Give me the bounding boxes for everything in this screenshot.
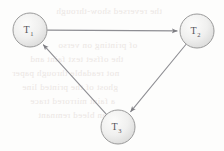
edge-t3-to-t1 (43, 45, 106, 114)
diagram-figure: the reversed show-throughof printing on … (0, 0, 224, 151)
node-t1: T1 (13, 13, 47, 47)
node-label-subscript: 3 (118, 127, 121, 134)
diagram-canvas: T1T2T3 (0, 0, 224, 151)
node-label-base: T (191, 25, 197, 36)
edge-t2-to-t3 (131, 45, 186, 112)
node-t2: T2 (180, 14, 214, 48)
node-label-subscript: 2 (197, 31, 200, 38)
edges-group (43, 30, 185, 114)
edge-t1-to-t2 (48, 30, 178, 31)
node-label-base: T (112, 121, 118, 132)
node-t3: T3 (101, 110, 135, 144)
nodes-group: T1T2T3 (13, 13, 214, 144)
node-label-base: T (24, 24, 30, 35)
node-label-subscript: 1 (30, 30, 33, 37)
